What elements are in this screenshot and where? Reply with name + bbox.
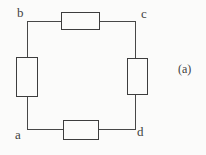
resistor-bottom-icon — [63, 120, 99, 140]
node-label-c: c — [141, 7, 147, 20]
resistor-top-icon — [61, 12, 100, 30]
resistor-left-icon — [16, 57, 38, 97]
wire-loop — [27, 21, 136, 130]
node-label-b: b — [17, 6, 24, 19]
circuit-diagram-figure: b c a d (a) — [0, 0, 206, 155]
node-label-a: a — [15, 128, 21, 141]
node-label-d: d — [137, 125, 144, 138]
figure-label: (a) — [178, 63, 191, 75]
resistor-right-icon — [127, 58, 148, 95]
